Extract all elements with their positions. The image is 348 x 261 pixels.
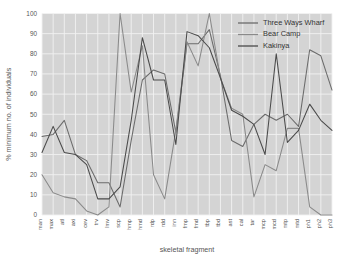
y-tick-label: 100: [26, 10, 37, 17]
x-axis-title: skeletal fragment: [160, 245, 215, 254]
x-tick-label: axi: [70, 219, 76, 226]
x-tick-label: man: [37, 219, 43, 230]
x-tick-label: max: [48, 219, 54, 230]
x-tick-label: atl: [59, 219, 65, 225]
y-tick-label: 70: [30, 70, 38, 77]
x-tick-label: fmp: [182, 219, 188, 228]
y-tick-label: 20: [30, 171, 38, 178]
y-tick-label: 40: [30, 131, 38, 138]
x-tick-label: hmd: [137, 219, 143, 230]
x-tick-label: tar: [249, 219, 255, 226]
x-tick-label: inn: [171, 219, 177, 226]
x-tick-label: ph1: [305, 219, 311, 228]
x-tick-label: cev: [82, 219, 88, 228]
y-tick-label: 80: [30, 50, 38, 57]
x-tick-label: lmv: [104, 219, 110, 228]
x-tick-label: mtd: [294, 219, 300, 228]
x-tick-label: cal: [238, 219, 244, 226]
legend-label-kakinya: Kakinya: [263, 41, 290, 50]
x-tick-label: rdp: [149, 219, 155, 227]
y-tick-label: 30: [30, 151, 38, 158]
y-tick-label: 50: [30, 111, 38, 118]
x-tick-label: tbp: [204, 219, 210, 227]
chart-figure: 0102030405060708090100 manmaxatlaxicevtr…: [0, 0, 348, 261]
x-tick-label: mcp: [260, 219, 266, 230]
x-tick-label: tbd: [215, 219, 221, 227]
x-tick-label: fmd: [193, 219, 199, 228]
legend-label-three-ways-wharf: Three Ways Wharf: [263, 18, 325, 27]
x-tick-label: ast: [227, 219, 233, 227]
x-tick-label: hmp: [126, 219, 132, 230]
x-tick-label: mcd: [271, 219, 277, 230]
x-tick-label: ph2: [316, 219, 322, 228]
x-tick-label: trv: [93, 219, 99, 225]
x-tick-label: scp: [115, 219, 121, 228]
y-tick-label: 10: [30, 191, 38, 198]
line-chart: 0102030405060708090100 manmaxatlaxicevtr…: [0, 0, 348, 261]
y-tick-label: 60: [30, 90, 38, 97]
legend-label-bear-camp: Bear Camp: [263, 29, 300, 38]
x-tick-label: mtp: [282, 219, 288, 228]
y-axis-title: % minimum no. of individuals: [4, 67, 13, 160]
x-tick-label: ph3: [327, 219, 333, 228]
x-tick-label: rdd: [160, 219, 166, 227]
y-tick-label: 90: [30, 30, 38, 37]
y-tick-label: 0: [33, 211, 37, 218]
